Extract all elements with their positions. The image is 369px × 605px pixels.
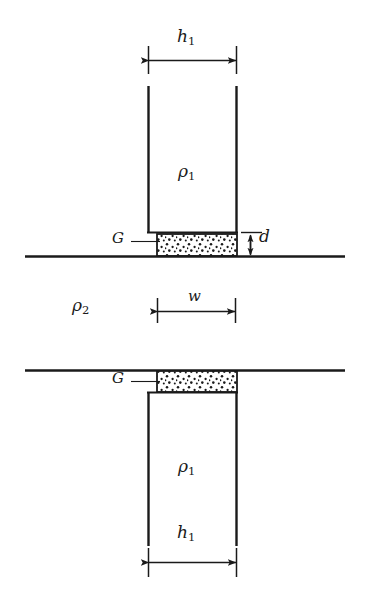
dimension-h1-top [149, 46, 237, 74]
diagram-graphics [0, 0, 369, 605]
stipple-fill-top [157, 234, 237, 256]
label-g-top: G [112, 231, 124, 246]
dimension-h1-bottom [149, 548, 237, 577]
label-g-bottom: G [112, 371, 124, 386]
top-stipple-block [157, 234, 237, 256]
figure-canvas: h1 ρ1 G d ρ2 w G ρ1 h1 [0, 0, 369, 605]
label-d: d [259, 228, 270, 245]
label-w: w [188, 289, 201, 304]
stipple-fill-bottom [157, 371, 237, 392]
label-h1-top: h1 [177, 28, 195, 48]
top-block [147, 86, 238, 233]
label-rho2: ρ2 [72, 297, 89, 317]
bottom-stipple-block [157, 371, 237, 392]
label-rho1-top: ρ1 [178, 163, 195, 183]
label-rho1-bottom: ρ1 [178, 458, 195, 478]
label-h1-bottom: h1 [177, 524, 195, 544]
